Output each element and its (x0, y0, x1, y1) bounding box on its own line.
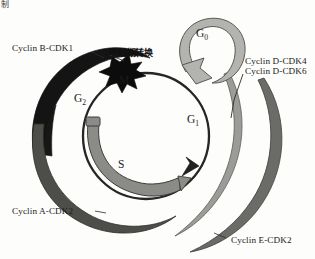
cyclin-e-cdk2-label: Cyclin E-CDK2 (231, 236, 292, 246)
cyclin-d-cdk6-label: Cyclin D-CDK6 (245, 67, 307, 77)
s-phase-band-cap (86, 117, 100, 126)
s-phase-label: S (118, 158, 124, 170)
cyclin-d-cdk4-cdk6-arc (175, 72, 242, 236)
g2-phase-subscript: 2 (82, 98, 86, 107)
cyclin-d-complex-label: Cyclin D-CDK4 Cyclin D-CDK6 (245, 57, 307, 76)
metaphase-anaphase-transition-label: 中后期转换 (109, 49, 153, 58)
corner-text-fragment: 制 (1, 1, 9, 9)
m-phase-label: M (119, 74, 129, 86)
cell-cycle-figure: 制 Cyclin B-CDK1 Cyclin D-CDK4 Cyclin D-C… (0, 0, 315, 259)
g2-phase-label: G2 (74, 92, 86, 107)
g1-phase-label: G1 (187, 113, 199, 128)
cyclin-a-leader-line (95, 211, 106, 213)
cell-cycle-illustration (0, 0, 315, 259)
g1-phase-subscript: 1 (195, 119, 199, 128)
cyclin-a-cdk2-arc (32, 124, 176, 233)
s-phase-band (87, 123, 180, 196)
cyclin-b-cdk1-label: Cyclin B-CDK1 (12, 44, 73, 54)
g0-phase-label: G0 (196, 27, 208, 42)
cyclin-a-cdk2-label: Cyclin A-CDK2 (12, 207, 73, 217)
g0-phase-subscript: 0 (204, 33, 208, 42)
cell-cycle-ring (83, 73, 209, 199)
